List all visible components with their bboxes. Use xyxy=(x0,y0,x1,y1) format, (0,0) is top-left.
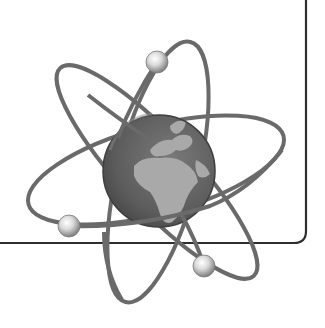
electron-top xyxy=(146,51,168,73)
atom-globe-illustration: atom-globe xyxy=(0,0,325,328)
electron-bottom-right xyxy=(193,255,215,277)
electron-left xyxy=(58,215,80,237)
